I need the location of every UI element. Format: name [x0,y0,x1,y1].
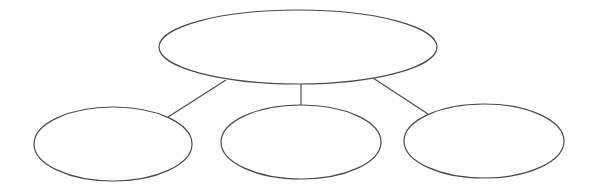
node-child-left [34,107,192,181]
root-ellipse [159,10,437,84]
tree-diagram [0,0,589,191]
child-left-ellipse [34,107,192,181]
edge-root-to-left [168,80,226,117]
edge-root-to-right [373,78,428,114]
node-root [159,10,437,84]
node-child-right [404,104,564,178]
child-right-ellipse [404,104,564,178]
node-child-middle [221,105,381,179]
child-middle-ellipse [221,105,381,179]
